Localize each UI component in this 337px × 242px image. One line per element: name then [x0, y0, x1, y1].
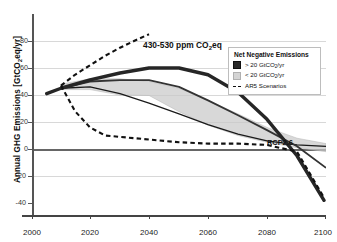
- y-tick-label-neg40: -40: [2, 199, 26, 207]
- legend: Net Negative Emissions > 20 GtCO2/yr < 2…: [228, 47, 321, 95]
- legend-label-gt20-prefix: > 20 GtCO: [245, 61, 275, 68]
- legend-item-gt20: > 20 GtCO2/yr: [233, 61, 316, 70]
- x-tickmark-2080: [267, 215, 268, 219]
- legend-label-ar5: AR5 Scenarios: [245, 82, 286, 90]
- legend-swatch-dark-square-icon: [233, 61, 241, 69]
- y-tick-label-neg20: -20: [2, 172, 26, 180]
- x-tickmark-2040: [149, 215, 150, 219]
- scenario-band-label-suffix: eq: [212, 40, 222, 50]
- legend-label-gt20-suffix: /yr: [277, 61, 284, 68]
- y-axis-line: [32, 14, 34, 215]
- legend-label-gt20-subscript: 2: [275, 64, 278, 69]
- y-tick-label-20: 20: [4, 118, 28, 126]
- legend-item-lt20: < 20 GtCO2/yr: [233, 71, 316, 80]
- legend-item-ar5: AR5 Scenarios: [233, 82, 316, 91]
- legend-label-lt20-subscript: 2: [275, 74, 278, 79]
- legend-label-lt20-suffix: /yr: [277, 71, 284, 78]
- legend-swatch-light-square-icon: [233, 72, 241, 80]
- x-tick-label-2040: 2040: [126, 228, 172, 237]
- rcp26-label: RCP2.6: [267, 138, 293, 147]
- x-tick-label-2060: 2060: [185, 228, 231, 237]
- x-tick-label-2000: 2000: [9, 228, 55, 237]
- x-tickmark-2060: [208, 215, 209, 219]
- y-axis-title-subscript: 2: [16, 59, 22, 62]
- y-tick-label-0: 0: [4, 145, 28, 153]
- y-tick-label-80: 80: [4, 37, 28, 45]
- legend-label-gt20: > 20 GtCO2/yr: [245, 61, 284, 70]
- x-tickmark-2020: [90, 215, 91, 219]
- x-tick-label-2080: 2080: [244, 228, 290, 237]
- legend-label-lt20-prefix: < 20 GtCO: [245, 71, 275, 78]
- x-tickmark-2000: [32, 215, 33, 219]
- x-tick-label-2100: 2100: [300, 228, 337, 237]
- legend-label-lt20: < 20 GtCO2/yr: [245, 71, 284, 80]
- scenario-band-label-prefix: 430-530 ppm CO: [143, 40, 209, 50]
- x-tick-label-2020: 2020: [67, 228, 113, 237]
- scenario-band-label-subscript: 2: [209, 45, 212, 51]
- legend-swatch-dashed-line-icon: [233, 82, 241, 90]
- y-tick-label-40: 40: [4, 91, 28, 99]
- x-axis-line: [22, 215, 326, 217]
- legend-title: Net Negative Emissions: [234, 51, 316, 58]
- x-tickmark-2100: [325, 215, 326, 219]
- y-tick-label-60: 60: [4, 64, 28, 72]
- scenario-band-label: 430-530 ppm CO2eq: [143, 40, 222, 50]
